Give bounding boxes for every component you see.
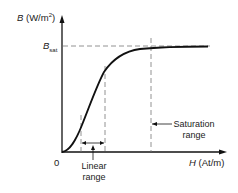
linear-range-label: Linear range [74, 161, 114, 183]
linear-range-right-arrow-icon [100, 141, 104, 145]
linear-range-line1: Linear [74, 161, 114, 172]
origin-label: 0 [54, 157, 59, 168]
y-axis-label: B (W/m2) [17, 10, 55, 23]
y-axis-arrow-icon [60, 15, 65, 23]
saturation-range-label: Saturation range [169, 119, 219, 141]
linear-range-line2: range [74, 172, 114, 183]
x-axis-arrow-icon [219, 150, 227, 155]
saturation-range-line2: range [169, 130, 219, 141]
linear-range-left-arrow-icon [82, 141, 86, 145]
bsat-subscript: sat [49, 47, 57, 53]
x-axis-unit: (At/m) [199, 157, 225, 168]
y-axis-unit-close: ) [52, 12, 55, 23]
saturation-range-line1: Saturation [169, 119, 219, 130]
x-axis-symbol: H [189, 157, 196, 168]
saturation-pointer-arrow-icon [152, 122, 157, 126]
y-axis-unit: (W/m [26, 12, 49, 23]
linear-range-pointer-arrow-icon [91, 145, 95, 150]
x-axis-label: H (At/m) [189, 157, 224, 168]
bsat-label: Bsat [43, 40, 57, 56]
y-axis-symbol: B [17, 12, 23, 23]
